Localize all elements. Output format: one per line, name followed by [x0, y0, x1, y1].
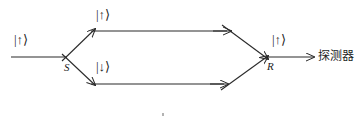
beam-path-diagram	[0, 0, 363, 125]
input-state-ket: |↑⟩	[14, 33, 28, 46]
upper-merge-segment	[222, 25, 268, 59]
lower-merge-segment	[221, 56, 268, 90]
detector-label: 探测器	[318, 50, 354, 62]
quantum-interferometer-figure: |↑⟩ |↑⟩ |↓⟩ |↑⟩ S R 探测器	[0, 0, 363, 125]
scan-artifact-speck	[162, 113, 164, 116]
upper-split-segment	[62, 29, 95, 61]
upper-path-state-ket: |↑⟩	[96, 8, 110, 21]
lower-path-state-ket: |↓⟩	[96, 60, 110, 73]
splitter-label: S	[64, 62, 70, 73]
output-state-ket: |↑⟩	[272, 33, 286, 46]
recombiner-label: R	[267, 61, 274, 72]
